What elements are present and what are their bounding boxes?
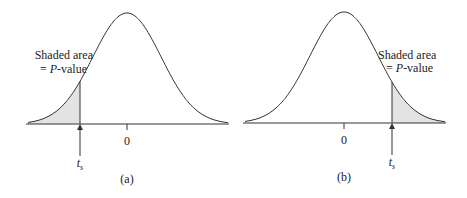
annotation-line2: = P-value: [386, 61, 433, 75]
annotation-line1: Shaded area: [378, 48, 437, 62]
panel-b: 0 ts Shaded area = P-value (b): [243, 12, 446, 184]
shaded-right-tail: [392, 82, 445, 123]
panel-a: 0 ts Shaded area = P-value (a): [26, 13, 229, 186]
stat-label: ts: [389, 155, 395, 171]
annotation-line1: Shaded area: [35, 48, 94, 62]
panel-caption: (b): [337, 170, 351, 184]
stat-label: ts: [77, 156, 83, 172]
shaded-left-tail: [28, 81, 80, 124]
panel-caption: (a): [120, 172, 133, 186]
zero-tick-label: 0: [341, 133, 347, 147]
p-value-diagram: 0 ts Shaded area = P-value (a) 0 ts Shad…: [0, 0, 467, 198]
annotation-line2: = P-value: [40, 62, 87, 76]
zero-tick-label: 0: [124, 134, 130, 148]
